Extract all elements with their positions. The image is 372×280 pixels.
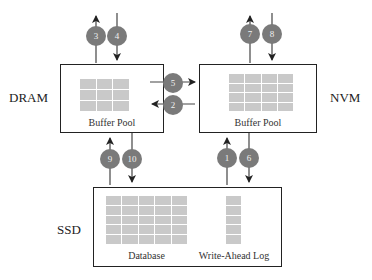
step-label-3: 3: [94, 31, 99, 41]
step-label-4: 4: [115, 31, 120, 41]
step-label-6: 6: [247, 153, 252, 163]
step-label-1: 1: [225, 153, 230, 163]
step-label-9: 9: [108, 154, 113, 164]
step-label-10: 10: [128, 154, 138, 164]
step-label-7: 7: [248, 29, 253, 39]
step-label-2: 2: [171, 100, 176, 110]
step-label-5: 5: [171, 78, 176, 88]
arrows-layer: 3 4 7 8 5 2 9 10 1 6: [0, 0, 372, 280]
step-label-8: 8: [270, 29, 275, 39]
